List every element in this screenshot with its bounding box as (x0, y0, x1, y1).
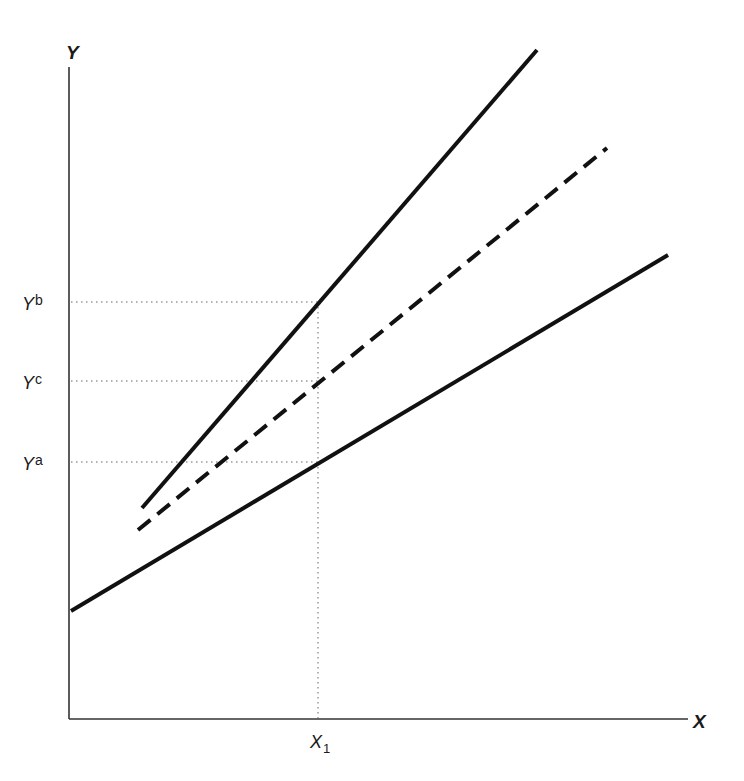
guide-lines (71, 302, 318, 718)
x-tick-x1: X1 (310, 733, 330, 755)
y-axis-title: Y (66, 43, 79, 62)
y-tick-yc: Yc (22, 372, 42, 392)
x-tick-x1-main: X (310, 732, 322, 752)
y-tick-yc-main: Y (22, 373, 34, 393)
y-tick-yb-sup: b (35, 292, 43, 308)
chart-canvas (0, 0, 744, 781)
y-tick-ya-main: Y (22, 454, 34, 474)
steep-solid-line (142, 50, 537, 508)
y-tick-ya: Ya (22, 453, 43, 473)
shallow-solid-line (71, 255, 668, 611)
y-tick-yc-sup: c (35, 371, 42, 387)
y-tick-yb: Yb (22, 293, 43, 313)
y-tick-yb-main: Y (22, 294, 34, 314)
y-tick-ya-sup: a (35, 452, 43, 468)
x-tick-x1-sub: 1 (323, 741, 330, 756)
x-axis-title: X (693, 712, 706, 731)
middle-dashed-line (138, 148, 607, 530)
